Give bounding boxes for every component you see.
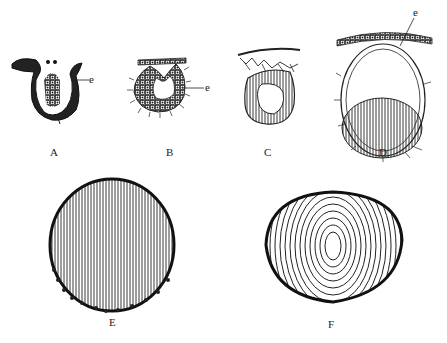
annotation-e-a: e <box>89 73 94 85</box>
panel-label-c: C <box>264 146 271 158</box>
annotation-e-b: e <box>205 81 210 93</box>
panel-label-b: B <box>166 146 173 158</box>
panel-f-drawing <box>265 154 402 338</box>
panel-label-d: D <box>379 146 387 158</box>
panel-d-drawing <box>334 18 432 162</box>
panel-label-f: F <box>328 318 334 330</box>
panel-c-drawing <box>238 49 300 124</box>
panel-a-drawing <box>12 59 89 124</box>
panel-e-drawing <box>48 178 176 314</box>
panel-label-a: A <box>50 146 58 158</box>
figure-canvas <box>0 0 447 343</box>
panel-label-e: E <box>109 316 116 328</box>
annotation-e-d: e <box>413 6 418 18</box>
panel-b-drawing <box>127 58 204 118</box>
